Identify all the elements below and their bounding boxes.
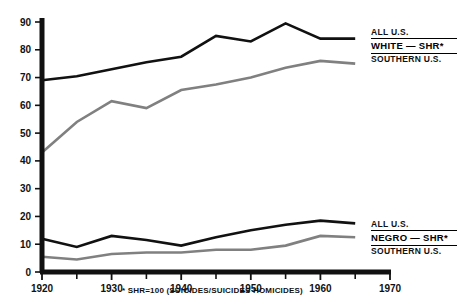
- y-tick-label: 40: [20, 155, 32, 166]
- x-tick-label: 1960: [309, 283, 332, 294]
- y-tick-label: 0: [25, 267, 31, 278]
- legend-white-southern-us-label: SOUTHERN U.S.: [371, 54, 457, 65]
- legend-negro-shr: ALL U.S. NEGRO — SHR* SOUTHERN U.S.: [371, 219, 457, 257]
- x-tick-label: 1920: [31, 283, 54, 294]
- data-series-group: [42, 23, 355, 259]
- y-tick-label: 50: [20, 128, 32, 139]
- y-tick-label: 30: [20, 183, 32, 194]
- y-tick-label: 80: [20, 44, 32, 55]
- y-axis: 0102030405060708090: [20, 17, 42, 278]
- x-tick-label: 1930: [100, 283, 123, 294]
- series-line: [42, 23, 355, 80]
- chart-root: 0102030405060708090 19201930194019501960…: [0, 0, 459, 308]
- y-tick-label: 60: [20, 100, 32, 111]
- x-tick-label: 1970: [379, 283, 402, 294]
- legend-white-all-us-label: ALL U.S.: [371, 27, 457, 38]
- series-line: [42, 221, 355, 247]
- y-tick-label: 70: [20, 72, 32, 83]
- legend-negro-all-us-label: ALL U.S.: [371, 219, 457, 230]
- y-tick-label: 10: [20, 239, 32, 250]
- chart-footnote: * SHR=100 (SUICIDES/SUICIDES HOMICIDES): [122, 286, 303, 295]
- legend-negro-title: NEGRO — SHR*: [371, 230, 457, 246]
- legend-white-title: WHITE — SHR*: [371, 38, 457, 54]
- series-line: [42, 236, 355, 260]
- y-tick-label: 90: [20, 17, 32, 28]
- legend-negro-southern-us-label: SOUTHERN U.S.: [371, 246, 457, 257]
- legend-white-shr: ALL U.S. WHITE — SHR* SOUTHERN U.S.: [371, 27, 457, 65]
- axis-spines: [40, 18, 391, 273]
- y-tick-label: 20: [20, 211, 32, 222]
